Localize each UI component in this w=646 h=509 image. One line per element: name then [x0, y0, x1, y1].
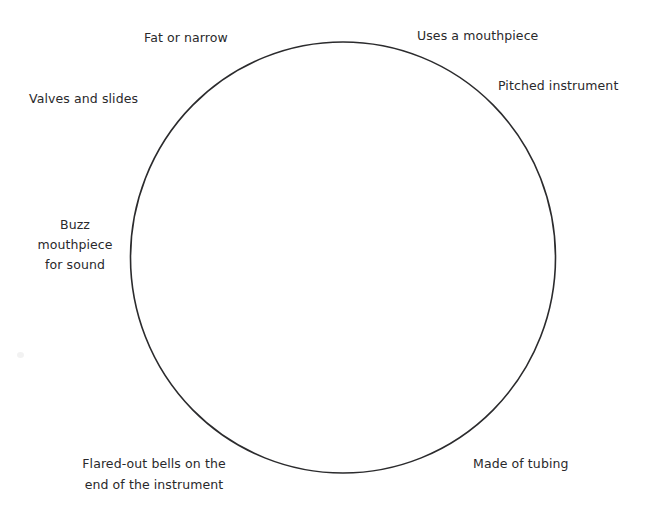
paper-smudge-artifact [17, 352, 24, 358]
circle-map-canvas: Fat or narrow Uses a mouthpiece Pitched … [0, 0, 646, 509]
label-buzz-mouthpiece-for-sound: Buzz mouthpiece for sound [20, 215, 130, 275]
label-buzz-line-1: Buzz [20, 215, 130, 235]
label-buzz-line-3: for sound [20, 255, 130, 275]
label-flared-line-2: end of the instrument [64, 474, 244, 495]
main-circle-outline [131, 42, 556, 473]
label-buzz-line-2: mouthpiece [20, 235, 130, 255]
label-flared-line-1: Flared-out bells on the [64, 453, 244, 474]
label-flared-out-bells: Flared-out bells on the end of the instr… [64, 453, 244, 495]
label-made-of-tubing: Made of tubing [473, 454, 569, 474]
label-pitched-instrument: Pitched instrument [498, 76, 618, 96]
label-uses-a-mouthpiece: Uses a mouthpiece [417, 26, 538, 46]
label-valves-and-slides: Valves and slides [29, 89, 138, 109]
label-fat-or-narrow: Fat or narrow [144, 28, 228, 48]
